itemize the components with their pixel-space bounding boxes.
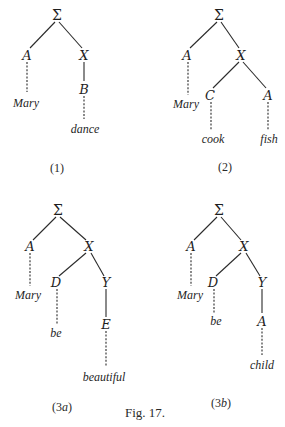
word-beautiful: beautiful <box>83 370 126 384</box>
node-a2: A <box>256 314 266 329</box>
word-mary: Mary <box>172 97 200 111</box>
edge-x-y <box>91 253 104 276</box>
node-e: E <box>100 317 111 332</box>
word-mary: Mary <box>12 96 40 110</box>
tree-label-2: (2) <box>218 160 232 174</box>
edge-x-a2 <box>243 62 266 88</box>
figure-caption: Fig. 17. <box>125 405 165 420</box>
edge-sigma-x <box>221 22 239 48</box>
node-a: A <box>185 239 195 254</box>
node-y: Y <box>102 275 112 290</box>
edge-sigma-a <box>190 22 217 48</box>
tree-label-3a: (3a) <box>52 400 72 414</box>
word-mary: Mary <box>14 288 42 302</box>
node-a2: A <box>262 88 272 103</box>
edge-x-d <box>59 253 86 276</box>
tree-diagram-figure: Σ A X B Mary dance (1) Σ A X C A Mary co… <box>0 0 285 427</box>
word-be: be <box>210 314 222 328</box>
edge-x-c <box>213 62 239 88</box>
tree-3a: Σ A X D Y E Mary be beautiful (3a) <box>14 202 126 414</box>
edge-sigma-x <box>60 217 86 240</box>
edge-x-d <box>216 253 241 276</box>
node-d: D <box>207 275 219 290</box>
word-cook: cook <box>202 132 225 146</box>
tree-3b: Σ A X D Y A Mary be child (3b) <box>176 202 275 410</box>
tree-2: Σ A X C A Mary cook fish (2) <box>172 7 278 174</box>
edge-sigma-a <box>33 217 56 240</box>
edge-sigma-a <box>194 217 217 240</box>
node-x: X <box>235 48 246 63</box>
node-sigma: Σ <box>52 7 62 23</box>
node-sigma: Σ <box>214 202 224 218</box>
edge-x-y <box>246 253 260 276</box>
node-x: X <box>78 48 89 63</box>
tree-1: Σ A X B Mary dance (1) <box>12 7 100 175</box>
node-sigma: Σ <box>214 7 224 23</box>
node-sigma: Σ <box>53 202 63 218</box>
tree-label-1: (1) <box>50 161 64 175</box>
node-a: A <box>21 48 31 63</box>
node-c: C <box>205 88 215 103</box>
word-child: child <box>250 358 275 372</box>
node-x: X <box>83 239 94 254</box>
tree-label-3b: (3b) <box>211 396 231 410</box>
word-mary: Mary <box>176 288 204 302</box>
edge-sigma-x <box>59 22 82 48</box>
node-b: B <box>78 82 89 97</box>
edge-sigma-a <box>30 22 55 48</box>
node-a: A <box>181 48 191 63</box>
edge-sigma-x <box>221 217 241 240</box>
node-d: D <box>50 275 62 290</box>
node-y: Y <box>258 275 268 290</box>
word-be: be <box>50 326 62 340</box>
word-dance: dance <box>71 122 100 136</box>
word-fish: fish <box>260 132 277 146</box>
node-a: A <box>24 239 34 254</box>
node-x: X <box>238 239 249 254</box>
